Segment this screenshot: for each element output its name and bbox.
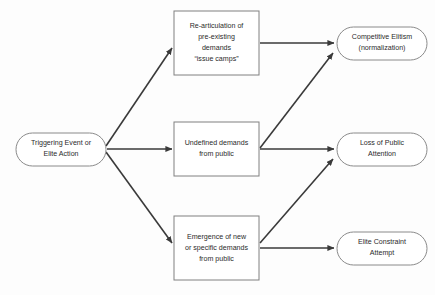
node-loss-of-attention-line2: Attention (368, 150, 396, 158)
nodes-layer: Triggering Event or Elite Action Re-arti… (16, 11, 427, 280)
edge-trigger-to-rearticulation (106, 48, 172, 146)
node-competitive-elitism-line2: (normalization) (359, 44, 406, 52)
flowchart-diagram: Triggering Event or Elite Action Re-arti… (0, 0, 435, 295)
node-rearticulation-line4: “issue camps” (194, 55, 239, 63)
node-elite-constraint[interactable]: Elite Constraint Attempt (337, 232, 427, 265)
node-trigger[interactable]: Triggering Event or Elite Action (16, 133, 106, 166)
node-loss-of-attention[interactable]: Loss of Public Attention (337, 133, 427, 166)
node-undefined-demands[interactable]: Undefined demands from public (174, 122, 259, 176)
flowchart-canvas: Triggering Event or Elite Action Re-arti… (0, 0, 435, 295)
node-undefined-demands-shape (174, 122, 259, 176)
node-emergence-line3: from public (199, 255, 234, 263)
node-rearticulation-line3: demands (202, 44, 232, 52)
node-undefined-demands-line2: from public (199, 150, 234, 158)
node-emergence[interactable]: Emergence of new or specific demands fro… (174, 216, 259, 280)
edge-undefined-demands-to-competitive-elitism (260, 53, 333, 148)
node-emergence-line1: Emergence of new (187, 233, 247, 241)
node-competitive-elitism-line1: Competitive Elitism (352, 33, 412, 41)
node-competitive-elitism[interactable]: Competitive Elitism (normalization) (337, 27, 427, 60)
node-loss-of-attention-line1: Loss of Public (360, 139, 405, 147)
edge-emergence-to-loss-of-attention (260, 159, 333, 243)
node-rearticulation-line2: pre-existing (198, 33, 235, 41)
node-rearticulation[interactable]: Re-articulation of pre-existing demands … (174, 11, 259, 75)
node-trigger-line1: Triggering Event or (31, 139, 92, 147)
node-emergence-line2: or specific demands (185, 244, 249, 252)
node-trigger-line2: Elite Action (43, 150, 78, 158)
node-rearticulation-line1: Re-articulation of (190, 22, 244, 30)
edge-trigger-to-emergence (106, 152, 172, 243)
node-elite-constraint-line2: Attempt (370, 249, 394, 257)
node-undefined-demands-line1: Undefined demands (185, 139, 249, 147)
node-elite-constraint-line1: Elite Constraint (358, 238, 406, 246)
